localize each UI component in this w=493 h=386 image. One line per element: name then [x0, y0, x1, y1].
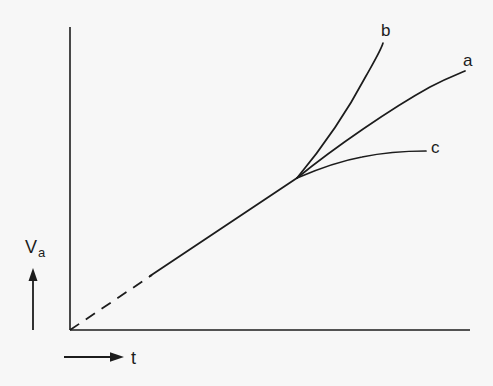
curve-a-path [297, 71, 465, 178]
up-arrow-icon [29, 268, 38, 330]
figure-container: b a c V a t [0, 0, 493, 386]
curve-label-b: b [381, 21, 390, 40]
x-axis-label-text: t [131, 348, 136, 368]
common-segment-solid-line [150, 178, 297, 276]
y-axis-label-main: V [25, 237, 37, 257]
common-segment-dashed-line [70, 275, 152, 330]
curve-label-c: c [431, 138, 440, 157]
curve-b-path [297, 43, 383, 178]
curve-c-path [297, 151, 426, 178]
y-axis-label-subscript: a [38, 245, 46, 260]
plot-canvas: b a c V a t [0, 0, 493, 386]
right-arrow-icon [64, 352, 124, 362]
curve-label-a: a [463, 51, 473, 70]
